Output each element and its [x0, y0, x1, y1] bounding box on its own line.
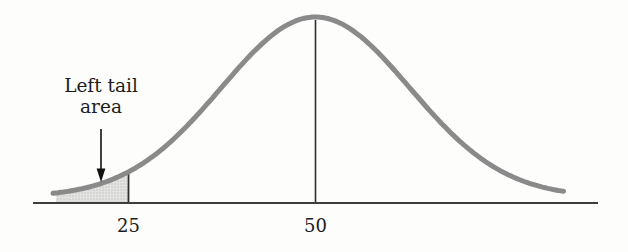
tick-label-25: 25: [117, 215, 140, 236]
annotation-label-line2: area: [80, 96, 122, 117]
normal-curve-chart: Left tail area 25 50: [0, 0, 628, 252]
annotation-label-line1: Left tail: [64, 75, 138, 96]
tick-label-50: 50: [304, 215, 327, 236]
bell-curve: [53, 17, 564, 193]
normal-curve-figure: Left tail area 25 50: [0, 0, 628, 252]
